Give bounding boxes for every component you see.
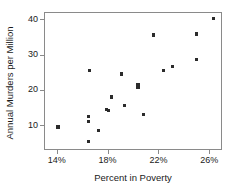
data-point <box>87 140 90 143</box>
x-axis-tick-label: 18% <box>93 155 123 165</box>
y-axis-tick-label: 10 <box>18 121 38 130</box>
x-axis-tick-mark <box>209 150 210 154</box>
x-axis-tick-label: 26% <box>194 155 224 165</box>
scatter-chart-figure: 10203040 14%18%22%26% Annual Murders per… <box>0 0 237 193</box>
data-point <box>87 115 90 118</box>
data-point <box>152 33 155 36</box>
data-point <box>56 125 59 128</box>
x-axis-title: Percent in Poverty <box>44 172 222 184</box>
data-point <box>142 113 145 116</box>
x-axis-tick-label: 22% <box>143 155 173 165</box>
data-point <box>136 85 139 88</box>
x-axis-tick-mark <box>108 150 109 154</box>
x-axis-tick-label: 14% <box>42 155 72 165</box>
x-axis-tick-mark <box>57 150 58 154</box>
data-point <box>123 104 126 107</box>
y-axis-tick-label: 40 <box>18 15 38 24</box>
data-point <box>97 129 100 132</box>
data-point <box>171 65 174 68</box>
data-point <box>107 109 110 112</box>
data-point <box>87 120 90 123</box>
data-point <box>195 32 198 35</box>
y-axis-tick-mark <box>40 55 44 56</box>
data-point <box>88 69 91 72</box>
data-point <box>120 72 123 75</box>
data-point <box>212 17 215 20</box>
data-point <box>110 95 113 98</box>
data-point <box>162 69 165 72</box>
data-point <box>195 58 198 61</box>
y-axis-tick-label: 30 <box>18 50 38 59</box>
y-axis-tick-label: 20 <box>18 85 38 94</box>
y-axis-tick-mark <box>40 90 44 91</box>
x-axis-tick-mark <box>158 150 159 154</box>
y-axis-tick-mark <box>40 19 44 20</box>
y-axis-tick-mark <box>40 125 44 126</box>
y-axis-title: Annual Murders per Million <box>2 8 18 158</box>
